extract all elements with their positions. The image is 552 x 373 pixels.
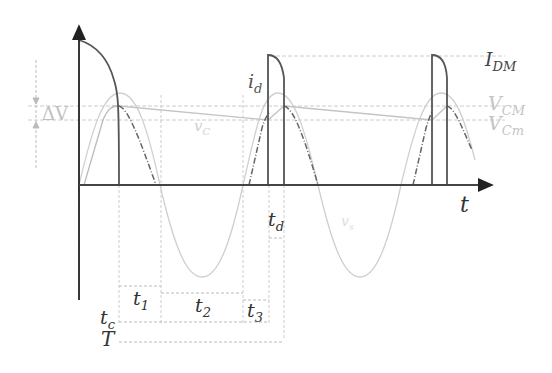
delta-v-dimension [33,60,39,170]
label-i-d: id [248,70,262,96]
label-td: td [268,208,284,234]
label-t2: t2 [195,294,211,320]
label-T: T [101,327,116,351]
waveform-diagram: t id IDM VCM VCm ΔV vC vs t1 t2 t3 tc T … [0,0,552,373]
rectified-dashdot [119,106,472,185]
label-t3: t3 [247,299,263,325]
label-x-axis-t: t [460,192,469,217]
label-v-s: vs [341,213,354,232]
label-t1: t1 [133,287,149,313]
label-delta-v: ΔV [42,103,69,124]
label-I-DM: IDM [484,48,517,74]
interval-dimensions [119,238,284,342]
diode-current-pulses [79,40,447,185]
capacitor-voltage-vc [112,106,447,120]
reference-lines [28,56,505,120]
